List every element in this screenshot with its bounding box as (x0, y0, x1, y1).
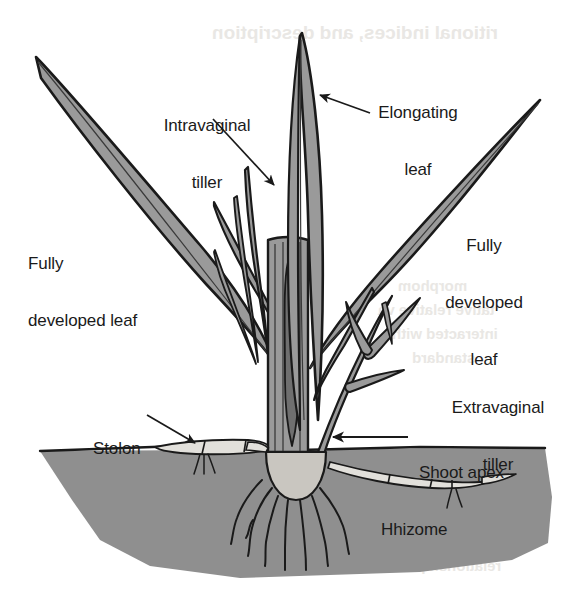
label-intravaginal-tiller-line1: Intravaginal (137, 116, 277, 135)
label-stolon-line1: Stolon (93, 439, 183, 458)
label-shoot-apex-line1: Shoot apex (419, 463, 559, 482)
label-fully-developed-leaf-left-line2: developed leaf (28, 311, 218, 330)
label-fully-developed-leaf-left-line1: Fully (28, 254, 218, 273)
label-fully-developed-leaf-right-line2: developed (416, 293, 552, 312)
label-elongating-leaf: Elongating leaf (358, 65, 478, 217)
label-elongating-leaf-line1: Elongating (358, 103, 478, 122)
label-stolon: Stolon (93, 401, 183, 496)
label-fully-developed-leaf-right-line1: Fully (416, 236, 552, 255)
label-intravaginal-tiller: Intravaginal tiller (137, 78, 277, 230)
label-rhizome-line1: Hhizome (381, 520, 491, 539)
label-rhizome: Hhizome (381, 482, 491, 577)
label-elongating-leaf-line2: leaf (358, 160, 478, 179)
label-intravaginal-tiller-line2: tiller (137, 173, 277, 192)
grass-tiller-diagram: ritional indices, and description morpho… (0, 0, 588, 596)
extravaginal-tiller (318, 296, 420, 454)
label-extravaginal-tiller-line1: Extravaginal (424, 398, 572, 417)
label-fully-developed-leaf-left: Fully developed leaf (28, 216, 218, 368)
